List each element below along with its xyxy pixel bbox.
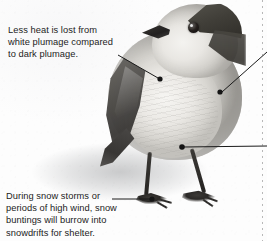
annotation-text-burrow: During snow storms or periods of high wi…	[6, 190, 138, 239]
leader-line-offscreen-top	[222, 52, 267, 92]
leader-dot-plumage	[157, 76, 162, 81]
annotation-text-plumage: Less heat is lost from white plumage com…	[8, 24, 132, 61]
page-edge-rule	[262, 0, 263, 241]
leader-dot-burrow	[149, 196, 154, 201]
annotated-bird-figure: Less heat is lost from white plumage com…	[0, 0, 267, 241]
leader-line-offscreen-right	[184, 146, 267, 147]
leader-dot-offscreen-top	[217, 89, 222, 94]
leader-dot-offscreen-right	[179, 144, 185, 150]
